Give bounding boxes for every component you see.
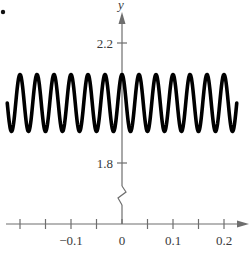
- x-tick-label: 0.2: [216, 233, 232, 248]
- x-tick-label: 0.1: [165, 233, 181, 248]
- y-axis-label: y: [116, 0, 124, 12]
- x-axis: −0.100.10.2: [6, 219, 249, 248]
- chart-canvas: y 2.21.8 −0.100.10.2: [0, 0, 251, 254]
- y-tick-label: 1.8: [97, 156, 113, 171]
- bullet-dot: [1, 10, 5, 14]
- x-tick-label: 0: [119, 233, 126, 248]
- x-axis-arrow-icon: [237, 221, 249, 228]
- axis-break-icon: [118, 186, 126, 205]
- x-tick-label: −0.1: [59, 233, 83, 248]
- y-axis-arrow-icon: [119, 12, 126, 24]
- y-tick-label: 2.2: [97, 36, 113, 51]
